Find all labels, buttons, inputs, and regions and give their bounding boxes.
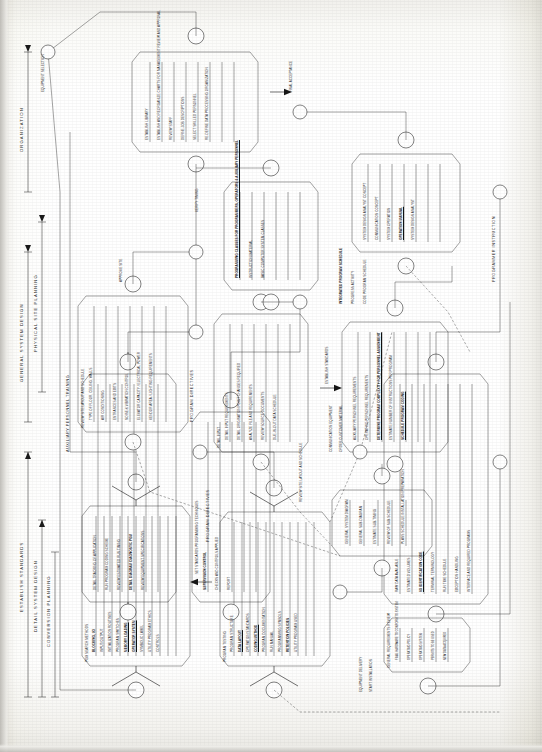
cluster-item: SYMBOLIC LABEL [141,625,145,652]
cluster-item: ENTRANCES AND EXITS [114,383,118,420]
cluster-item: CHECKS AND CONTROLS APPLIED [216,537,220,590]
cluster-item: TERMINAL TERMINOLOGY [432,552,436,592]
page-bottom-edge-shadow [0,744,542,752]
cluster-item: DETAIL DIAGRAM DIAGNOSTIC PGM [130,534,134,590]
cluster-item: AIR CONDITIONING [102,390,106,420]
cluster-item: CODING METHOD [255,625,259,652]
cluster-item: UTILITY PROGRAM USED [295,613,299,652]
misc-label-communication-equipment: COMMUNICATION EQUIPMENT [330,405,334,452]
cluster-item: PROGRESS ACTIVITY [352,271,356,304]
phase-band-label-organization: ORGANIZATION [20,107,25,152]
stream-label-program-directives-2: PROGRAM DIRECTIVES [206,490,210,542]
misc-label-final-acceptance: FINAL ACCEPTANCE [290,61,294,92]
phase-band-label-physical-site-planning: PHYSICAL SITE PLANNING [34,274,39,352]
cluster-item: EXCEPTION HANDLING [456,556,460,592]
cluster-item: TYPE OF FLOOR, CEILING, WALLS [90,368,94,420]
cluster-heading-program-testing: PROGRAM TESTING [224,631,228,662]
cluster-item: SYSTEM DESIGN ANALYST [412,199,416,240]
cluster-item: PERMITS TO BE USED [432,631,435,660]
cluster-item: DETAIL ORIGINATION POINT CHANGES REQUIRE… [238,363,242,440]
cluster-item: OPERATING PERSONNEL REQUIREMENTS [366,375,370,440]
cluster-item: GENERAL SUB-DIAGRAM [360,506,364,544]
cluster-item: INITIALIZATION ROUTINES [109,612,113,652]
cluster-item: BLOCKING, I/O [93,629,97,652]
cluster-item: DETERMINE PROGRAM COMPLEXITY FOR PERSONN… [378,332,382,440]
cluster-item: CONTROLS [157,634,161,652]
cluster-item: CODE PROGRAM SCHEDULE [364,259,368,304]
cluster-heading-site-layout: REVIEW SITE LAYOUT AND SCHEDULE [82,369,86,428]
cluster-item: DEFINE JOB DESCRIPTIONS [182,97,186,140]
phase-band-label-establish-standards: ESTABLISH STANDARDS [20,542,25,612]
cluster-item: SCHEDULE PROGRAM CODING [402,392,406,440]
cluster-item: ESTIMATED VOLUMES [408,558,412,592]
cluster-item: AUXILIARY PERSONNEL REQUIREMENTS [354,377,358,440]
cluster-program-testing [190,480,330,698]
cluster-item: RUN MANUAL [271,631,275,652]
cluster-item: RUN TIME SCHEDULE [444,559,448,592]
cluster-item: ESTABLISH LIBRARY [146,108,150,140]
cluster-item: REVIEW EQUIPMENT SPECIFICATIONS [142,531,146,590]
cluster-item: REVIEW STAFF [170,117,174,140]
cluster-item: OPERATOR SYSTEM [133,620,137,652]
misc-label-review-site-layout: REVIEW SITE LAYOUT AND SCHEDULE [300,443,304,502]
cluster-item: PROGRAM DOCUMENTATION [263,607,267,652]
cluster-system-operation [352,132,460,274]
cluster-item: VENDOR AREA / LIGHTING REQUIREMENTS [150,353,154,420]
misc-label-verify-timing: VERIFY TIMING [196,189,200,212]
stream-label-set-standards: SET STANDARDS PROGRAMMING TECHNIQUES [196,501,200,574]
cluster-item: OPERATING POLICY [408,634,411,660]
cluster-item: DATA LAYOUT [239,630,243,652]
stream-label-equipment-selection: EQUIPMENT SELECTION [42,54,46,92]
cluster-item: NOISE & VIBRATION CONTROL [126,373,130,420]
cluster-item: PROGRAM STRUCTURE [231,615,235,652]
cluster-item: SUPERVISION CONTROL [204,552,208,590]
cluster-heading-pgm-search-methods: PGM SEARCH METHODS [86,624,90,662]
cluster-item: REVIEW ESTIMATED RUN TIMING [118,539,122,590]
cluster-item: RAW DATA AVAILABLE [396,559,400,592]
misc-label-start-installation: START INSTALLATION [370,659,374,692]
misc-label-equipment-delivery: EQUIPMENT DELIVERY [360,657,364,692]
cluster-item: REVIEW SOURCE DOCUMENTS [262,392,266,440]
cluster-item: INTEGRATED PROGRAM SCHEDULE [340,248,344,304]
cluster-item: DETAIL TRACKING OF APPLICATION [94,535,98,590]
cluster-item: INPUT/OUTPUT [101,629,105,652]
diagram-canvas: ESTABLISH STANDARDS DETAIL SYSTEM DESIGN… [0,0,542,752]
cluster-item: RETENTION POLICIES [287,618,291,652]
cluster-item: OPERATION MANUAL [400,207,404,240]
cluster-detail-input [214,294,342,470]
cluster-item: I/O IDENTIFICATION CODE [420,552,424,592]
stream-label-program-directives-1: PROGRAM DIRECTIVES [190,370,194,422]
phase-band-label-conversion-planning: CONVERSION PLANNING [47,575,52,647]
stream-label-establish-std: ESTABLISH STANDARDS [326,347,330,384]
phase-band-rules [24,45,59,697]
page-left-edge-shadow [0,0,9,752]
cluster-heading-general-requirements: GENERAL REQUIREMENTS REVIEW [388,613,392,668]
phase-band-label-general-system-design: GENERAL SYSTEM DESIGN [20,303,25,382]
cluster-heading-detail-input: DETAIL INPUT [218,427,222,448]
misc-label-approve-site: APPROVE SITE [120,259,124,282]
cluster-item: ELEVATOR CAPACITY / ELECTRICAL POWER [138,352,142,420]
cluster-item: BASIC COMPUTER SYSTEM CLASSES [262,220,266,278]
cluster-item: UTILITY PROGRAM ETHICS [149,610,153,652]
cluster-item: RE-DEFINE DATA PROCESSING ORGANIZATION [206,67,210,140]
stream-label-auxiliary-personnel-training: AUXILIARY PERSONNEL TRAINING [66,375,70,452]
cluster-item: ESTIMATE NUMBER OF INSTRUCTIONS PER PROG… [390,355,394,440]
cluster-item: FINAL HARDWARE TO CONFORM TO SYSTEM [396,601,399,660]
cluster-item: OPERATION STANDARDS [247,613,251,652]
cluster-item: PROGRAMMING CLASSES FOR PROGRAMMERS, OPE… [236,140,240,278]
cluster-item: ESTABLISH AND REORGANIZE CHARTS FOR MANA… [158,10,162,140]
cluster-item: OPERATING SYSTEM [420,633,423,660]
cluster-item: SYSTEM DESIGN ANALYST CONCEPT [364,183,368,240]
cluster-item: ESTIMATE SUB-TIMING [374,509,378,544]
cluster-item: SELECT SKILLED PERSONNEL [194,93,198,140]
cluster-item: REVIEW OF SUB-SCHEDULE [388,500,392,544]
stream-label-programmer-instruction: PROGRAMMER INSTRUCTION [492,216,496,282]
cluster-item: PLANS SCHEDULE INSTALLATION PREPARATION [402,469,406,544]
cluster-item: NEW DATA ACQUIRED [444,632,447,660]
cluster-item: PROGRAM SWITCHES [117,618,121,652]
cluster-item: DETAIL INPUT REQUIREMENTS [226,392,230,440]
cluster-item: INSTRUCTION MATERIAL [250,240,254,278]
cluster-item: PROGRAMMING SYMBOLS [279,611,283,652]
phase-band-label-detail-system-design: DETAIL SYSTEM DESIGN [34,560,39,632]
cluster-item: REPORT [228,577,232,590]
